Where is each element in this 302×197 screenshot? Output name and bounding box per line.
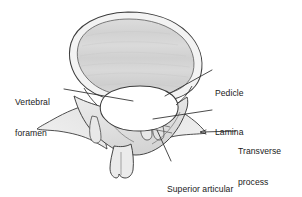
label-superior-articular-process: Superior articular process bbox=[167, 163, 233, 197]
label-transverse-process-line1: Transverse bbox=[238, 146, 281, 156]
label-vertebral-foramen: Vertebral foramen bbox=[15, 76, 50, 159]
vertebral-foramen bbox=[100, 86, 178, 131]
label-vertebral-foramen-line2: foramen bbox=[15, 128, 50, 138]
label-transverse-process: Transverse process bbox=[238, 125, 281, 197]
label-transverse-process-line2: process bbox=[238, 177, 281, 187]
label-superior-articular-process-line1: Superior articular bbox=[167, 184, 233, 194]
label-vertebral-foramen-line1: Vertebral bbox=[15, 97, 50, 107]
spinous-process bbox=[110, 144, 133, 178]
label-pedicle-line1: Pedicle bbox=[215, 88, 244, 98]
vertebra-diagram: Vertebral foramen Pedicle Lamina Transve… bbox=[0, 0, 302, 197]
